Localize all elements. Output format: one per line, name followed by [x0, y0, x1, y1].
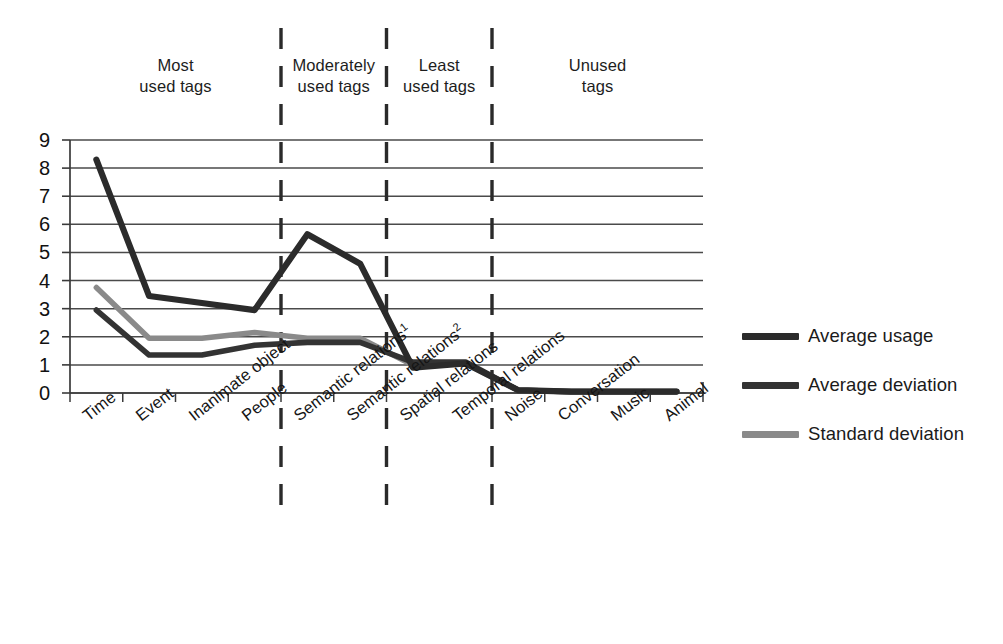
legend-item-1[interactable]: Average deviation — [742, 367, 964, 403]
y-tick-label-6: 6 — [28, 214, 50, 234]
legend-label-1: Average deviation — [808, 374, 957, 396]
band-label-1: Moderately used tags — [281, 55, 387, 98]
band-label-3: Unused tags — [492, 55, 703, 98]
band-label-2: Least used tags — [387, 55, 493, 98]
band-label-0: Most used tags — [70, 55, 281, 98]
y-tick-label-2: 2 — [28, 327, 50, 347]
legend-item-0[interactable]: Average usage — [742, 318, 964, 354]
legend-swatch-icon-1 — [742, 382, 799, 389]
y-tick-label-4: 4 — [28, 271, 50, 291]
chart-legend: Average usageAverage deviationStandard d… — [742, 318, 964, 465]
y-tick-label-0: 0 — [28, 383, 50, 403]
y-tick-label-9: 9 — [28, 130, 50, 150]
legend-item-2[interactable]: Standard deviation — [742, 416, 964, 452]
y-tick-label-8: 8 — [28, 158, 50, 178]
legend-swatch-icon-0 — [742, 333, 799, 340]
y-tick-label-1: 1 — [28, 355, 50, 375]
legend-label-0: Average usage — [808, 325, 933, 347]
legend-swatch-icon-2 — [742, 431, 799, 438]
y-tick-label-5: 5 — [28, 242, 50, 262]
y-tick-label-3: 3 — [28, 299, 50, 319]
chart-figure: Most used tagsModerately used tagsLeast … — [0, 0, 1003, 644]
legend-label-2: Standard deviation — [808, 423, 964, 445]
y-tick-label-7: 7 — [28, 186, 50, 206]
